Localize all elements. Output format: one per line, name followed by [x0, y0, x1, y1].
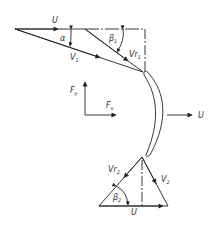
- beta1-subscript: 1: [114, 38, 117, 44]
- fy-label: Fy: [70, 86, 79, 97]
- fx-subscript: x: [110, 105, 114, 111]
- vr1-label: Vr1: [129, 50, 141, 60]
- fx-label: Fx: [106, 101, 114, 111]
- beta2-subscript: 2: [118, 197, 121, 203]
- velocity-triangle-diagram: U α β1 V1 Vr1 Fy Fx U Vr2 V2 β2 U: [0, 0, 213, 230]
- beta1-angle-arc: [117, 29, 123, 52]
- vr2-label: Vr2: [108, 165, 120, 175]
- vr2-arrow: [124, 157, 142, 178]
- v2-label: V2: [161, 175, 170, 185]
- v1-arrow: [15, 29, 100, 58]
- inlet-u-label: U: [52, 16, 58, 25]
- beta1-label: β1: [108, 34, 117, 44]
- v1-label: V1: [70, 53, 79, 63]
- fy-subscript: y: [74, 90, 79, 97]
- alpha-label: α: [60, 34, 66, 43]
- vr1-arrow: [85, 29, 128, 61]
- blade-outline: [144, 71, 163, 156]
- curved-blade: [144, 71, 163, 156]
- alpha-angle-arc: [70, 29, 71, 46]
- blade-u-label: U: [198, 111, 204, 120]
- inlet-velocity-triangle: [15, 29, 145, 72]
- vr2-subscript: 2: [117, 169, 120, 175]
- v2-subscript: 2: [166, 179, 169, 185]
- vr1-subscript: 1: [138, 54, 141, 60]
- beta2-label: β2: [112, 193, 121, 203]
- v2-arrow: [142, 157, 156, 184]
- outlet-u-label: U: [131, 208, 137, 217]
- v1-subscript: 1: [75, 57, 78, 63]
